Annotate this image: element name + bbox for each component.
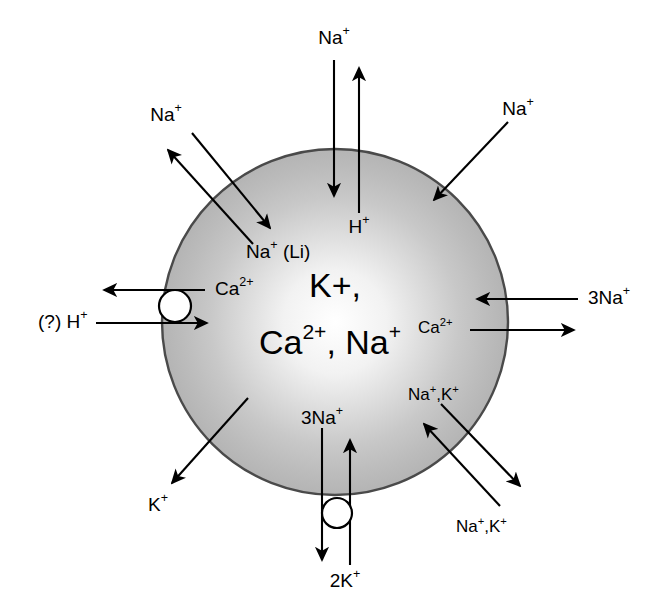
label-bottom-2k: 2K+ [330,567,361,591]
label-lower-left-k: K+ [148,491,168,515]
label-lower-right-outer-nak: Na+,K+ [456,515,507,537]
transporter-na-leak-channel: Na+ [434,95,534,200]
label-upper-right-na: Na+ [502,95,534,119]
arrow-na-influx-upper-right [434,122,508,200]
pump-circle-ca-h-atpase [159,290,191,322]
diagram-canvas: K+, Ca2+, Na+ Na+ H+ Na+ [0,0,656,611]
label-right-3na: 3Na+ [588,284,630,308]
label-top-na: Na+ [318,24,350,48]
label-upper-left-na: Na+ [150,101,182,125]
interior-label-line1: K+, [309,266,361,304]
label-left-h: (?) H+ [38,308,88,332]
cell-transport-diagram: K+, Ca2+, Na+ Na+ H+ Na+ [0,0,656,611]
pump-circle-na-k-atpase [322,498,352,528]
label-na-li: Na+ (Li) [246,238,310,262]
interior-label-line2: Ca2+, Na+ [259,320,401,361]
